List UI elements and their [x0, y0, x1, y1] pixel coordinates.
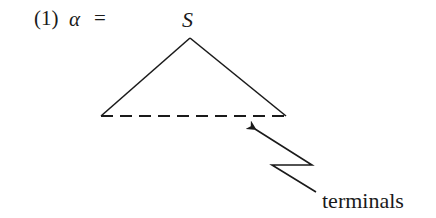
terminals-label: terminals	[322, 190, 404, 212]
tree-diagram	[0, 0, 436, 218]
right-edge	[190, 38, 286, 116]
left-edge	[101, 38, 190, 116]
triangle-icon	[101, 38, 286, 116]
zigzag-arrow-icon	[255, 129, 316, 192]
